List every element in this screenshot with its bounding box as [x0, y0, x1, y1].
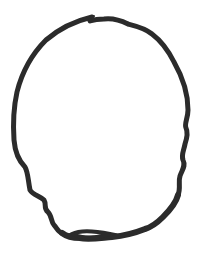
outline-stroke-left: [13, 17, 92, 233]
outline-sketch: [0, 0, 205, 260]
outline-stroke-right: [90, 19, 188, 195]
outline-stroke-bottom-loop: [72, 231, 110, 237]
sketch-canvas: [0, 0, 205, 260]
